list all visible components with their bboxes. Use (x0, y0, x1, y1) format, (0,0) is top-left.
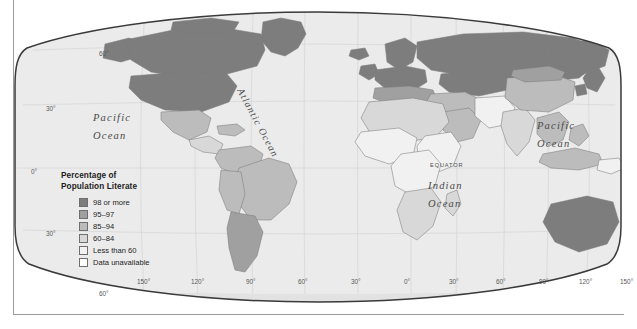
longitude-label: 90° (246, 278, 256, 285)
region-korea[interactable] (575, 84, 587, 96)
legend-swatch (79, 210, 88, 219)
longitude-label: 0° (404, 278, 410, 285)
legend-item-list: 98 or more95–9785–9460–84Less than 60Dat… (61, 197, 179, 268)
legend-swatch (79, 222, 88, 231)
latitude-label: 60° (99, 50, 109, 57)
latitude-label: 30° (46, 230, 56, 237)
legend-item[interactable]: 98 or more (61, 197, 179, 208)
legend-item-label: 60–84 (93, 234, 114, 243)
longitude-label: 60° (496, 278, 506, 285)
longitude-label: 30° (351, 278, 361, 285)
legend-swatch (79, 258, 88, 267)
longitude-label: 120° (579, 278, 592, 285)
latitude-label: 0° (31, 168, 37, 175)
longitude-label: 30° (449, 278, 459, 285)
legend-item-label: 85–94 (93, 222, 114, 231)
legend-item-label: 98 or more (93, 198, 130, 207)
equator-label: EQUATOR (430, 162, 463, 168)
legend-item[interactable]: 60–84 (61, 233, 179, 244)
legend-item[interactable]: Less than 60 (61, 245, 179, 256)
map-page: Pacific Ocean Pacific Ocean Atlantic Oce… (0, 0, 637, 329)
longitude-label: 60° (298, 278, 308, 285)
legend-item[interactable]: 95–97 (61, 209, 179, 220)
legend-swatch (79, 198, 88, 207)
legend-swatch (79, 234, 88, 243)
legend-item[interactable]: Data unavailable (61, 257, 179, 268)
legend-panel[interactable]: Percentage of Population Literate 98 or … (61, 171, 179, 269)
legend-title-line1: Percentage of (61, 171, 179, 182)
longitude-label: 150° (620, 278, 633, 285)
latitude-label: 30° (46, 105, 56, 112)
page-frame-bottom-rule (13, 314, 624, 315)
region-central-asia[interactable] (439, 70, 509, 96)
legend-item-label: 95–97 (93, 210, 114, 219)
legend-item[interactable]: 85–94 (61, 221, 179, 232)
longitude-label: 150° (137, 278, 150, 285)
legend-title-line2: Population Literate (61, 182, 179, 193)
legend-swatch (79, 246, 88, 255)
latitude-label: 60° (99, 290, 109, 297)
legend-item-label: Data unavailable (93, 258, 150, 267)
legend-item-label: Less than 60 (93, 246, 137, 255)
longitude-label: 90° (539, 278, 549, 285)
longitude-label: 120° (191, 278, 204, 285)
